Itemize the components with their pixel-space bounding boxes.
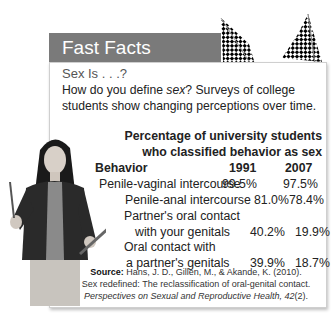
table-row-behavior-line2: with your genitals [135,225,230,239]
table-title-line2: who classified behavior as sex [100,144,322,160]
table-row-1991: 81.0% [254,193,289,207]
table-row-behavior-line1: Partner's oral contact [124,209,240,223]
fast-facts-title: Fast Facts [62,37,151,59]
source-line2: Sex redefined: The reclassification of o… [68,278,324,290]
column-header-1991: 1991 [229,161,256,175]
box-subtitle: Sex Is . . .? [62,66,127,81]
table-row-behavior: Penile-anal intercourse [125,193,251,207]
source-journal: Perspectives on Sexual and Reproductive … [84,291,295,301]
table-row-1991: 40.2% [250,225,285,239]
intro-emphasis: sex [166,83,185,97]
table-title-line1: Percentage of university students [100,128,322,144]
column-header-behavior: Behavior [95,161,148,175]
source-line1: Hans, J. D., Gillen, M., & Akande, K. (2… [124,267,302,277]
table-row-2007: 19.9% [295,225,330,239]
table-row-behavior: Penile-vaginal intercourse [99,177,241,191]
table-title: Percentage of university students who cl… [100,128,322,160]
source-citation: Source: Hans, J. D., Gillen, M., & Akand… [68,266,324,302]
table-row-behavior-line1: Oral contact with [124,240,216,254]
source-issue: (2). [295,291,309,301]
source-label: Source: [90,267,124,277]
column-header-2007: 2007 [285,161,312,175]
table-row-2007: 97.5% [283,177,318,191]
table-row-1991: 99.5% [222,177,257,191]
table-row-2007: 78.4% [289,193,324,207]
intro-text: How do you define sex? Surveys of colleg… [62,82,324,114]
intro-prefix: How do you define [62,83,166,97]
fast-facts-header: Fast Facts [49,33,221,62]
